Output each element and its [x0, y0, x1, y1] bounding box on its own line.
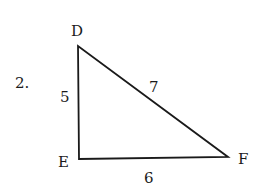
problem-number: 2.: [15, 74, 29, 92]
side-length-df: 7: [149, 78, 159, 96]
vertex-label-e: E: [58, 153, 69, 171]
vertex-label-d: D: [71, 22, 83, 40]
side-length-de: 5: [60, 88, 70, 106]
vertex-label-f: F: [238, 150, 248, 168]
triangle-def: [78, 46, 228, 159]
figure: 2. D E F 5 7 6: [0, 0, 271, 196]
side-length-ef: 6: [144, 169, 154, 187]
